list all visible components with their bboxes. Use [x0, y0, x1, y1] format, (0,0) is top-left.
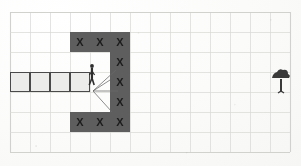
- worksheet-scene: XXXXXXXXX: [0, 0, 301, 166]
- line-of-sight-ray: [93, 80, 110, 91]
- stick-figure: [89, 64, 94, 85]
- figures-layer: [0, 0, 301, 166]
- line-of-sight-ray: [93, 70, 116, 91]
- tree-marker: [272, 69, 290, 93]
- line-of-sight-ray: [93, 91, 112, 112]
